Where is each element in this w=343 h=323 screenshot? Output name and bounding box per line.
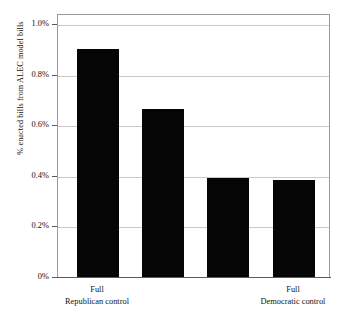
y-tick-mark	[52, 24, 57, 25]
y-tick-label: 0.4%	[5, 171, 49, 181]
y-tick-label: 0.8%	[5, 70, 49, 80]
x-axis-line	[57, 277, 331, 278]
y-tick-label: 0.2%	[5, 221, 49, 231]
bar	[77, 49, 119, 278]
y-tick-label: 0%	[5, 272, 49, 282]
x-axis-label-line1: Full	[37, 284, 157, 296]
x-axis-label-line2: Republican control	[37, 296, 157, 308]
y-tick-mark	[52, 226, 57, 227]
x-axis-label-line2: Democratic control	[233, 296, 343, 308]
bar-chart: % enacted bills from ALEC model bills 1.…	[0, 0, 343, 323]
x-axis-label-line1: Full	[233, 284, 343, 296]
x-axis-label: FullRepublican control	[37, 284, 157, 307]
gridline	[58, 25, 329, 26]
y-tick-mark	[52, 75, 57, 76]
bar	[207, 178, 249, 278]
y-tick-label: 0.6%	[5, 120, 49, 130]
y-tick-mark	[52, 125, 57, 126]
y-tick-mark	[52, 176, 57, 177]
bar	[142, 109, 184, 278]
x-axis-label: FullDemocratic control	[233, 284, 343, 307]
bar	[273, 180, 315, 278]
y-tick-label: 1.0%	[5, 19, 49, 29]
y-tick-mark	[52, 277, 57, 278]
plot-area	[57, 14, 330, 278]
